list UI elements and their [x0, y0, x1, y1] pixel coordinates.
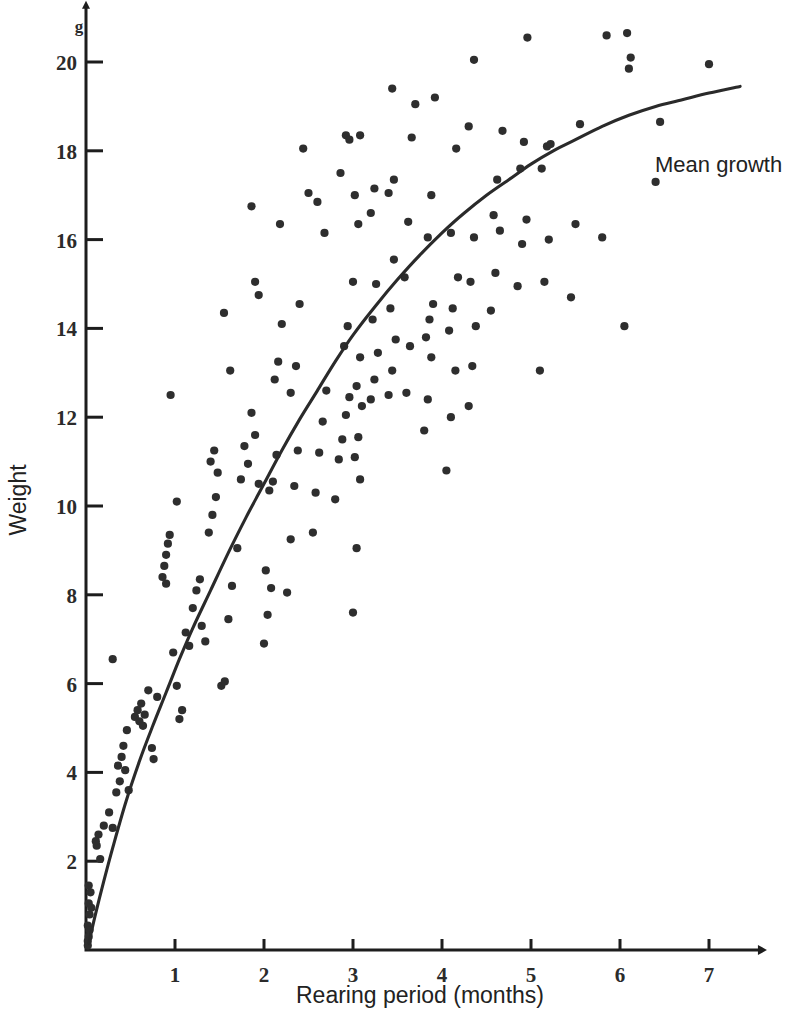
data-point	[175, 715, 183, 723]
data-point	[656, 118, 664, 126]
data-point	[119, 742, 127, 750]
data-point	[372, 280, 380, 288]
data-point	[344, 322, 352, 330]
data-point	[322, 387, 330, 395]
data-point	[627, 54, 635, 62]
data-point	[540, 278, 548, 286]
data-point	[452, 145, 460, 153]
data-point	[498, 127, 506, 135]
data-point	[487, 307, 495, 315]
data-point	[351, 191, 359, 199]
data-point	[105, 808, 113, 816]
data-point	[212, 493, 220, 501]
data-point	[652, 178, 660, 186]
data-point	[276, 220, 284, 228]
data-point	[312, 489, 320, 497]
data-point	[118, 753, 126, 761]
data-point	[251, 278, 259, 286]
y-axis-title: Weight	[5, 464, 31, 536]
data-point	[451, 367, 459, 375]
data-point	[442, 466, 450, 474]
data-point	[385, 189, 393, 197]
data-point	[338, 435, 346, 443]
growth-scatter-figure: 12345672468101214161820 g Weight Rearing…	[0, 0, 793, 1018]
data-point	[169, 648, 177, 656]
data-point	[603, 31, 611, 39]
data-point	[466, 278, 474, 286]
y-tick-label-6: 6	[67, 673, 78, 697]
plot-canvas: 12345672468101214161820 g Weight Rearing…	[0, 0, 793, 1018]
data-point	[349, 609, 357, 617]
data-point	[198, 622, 206, 630]
data-point	[447, 229, 455, 237]
data-point	[369, 315, 377, 323]
data-point	[290, 482, 298, 490]
data-point	[87, 904, 95, 912]
data-point	[404, 218, 412, 226]
data-point	[269, 478, 277, 486]
data-point	[313, 198, 321, 206]
data-point	[353, 544, 361, 552]
y-tick-label-2: 2	[67, 850, 78, 874]
data-point	[220, 309, 228, 317]
data-point	[109, 824, 117, 832]
data-point	[386, 304, 394, 312]
y-tick-label-18: 18	[56, 140, 77, 164]
data-point	[150, 755, 158, 763]
data-point	[370, 375, 378, 383]
data-point	[201, 637, 209, 645]
data-point	[109, 655, 117, 663]
data-point	[345, 136, 353, 144]
data-point	[319, 418, 327, 426]
data-point	[470, 233, 478, 241]
y-tick-label-14: 14	[56, 317, 78, 341]
axes-layer	[82, 1, 767, 955]
data-point	[518, 240, 526, 248]
data-point	[164, 540, 172, 548]
data-point	[420, 426, 428, 434]
data-point	[283, 589, 291, 597]
data-point	[205, 529, 213, 537]
data-point	[244, 460, 252, 468]
data-point	[267, 584, 275, 592]
data-point	[411, 100, 419, 108]
data-point	[210, 446, 218, 454]
data-point	[353, 382, 361, 390]
data-point	[167, 391, 175, 399]
data-point	[422, 333, 430, 341]
data-point	[233, 544, 241, 552]
data-point	[545, 236, 553, 244]
data-point	[431, 93, 439, 101]
data-point	[520, 138, 528, 146]
data-point	[192, 586, 200, 594]
data-point	[454, 273, 462, 281]
data-point	[390, 176, 398, 184]
data-point	[514, 282, 522, 290]
data-point	[392, 335, 400, 343]
data-point	[571, 220, 579, 228]
data-point	[153, 693, 161, 701]
data-point	[226, 367, 234, 375]
data-point	[445, 327, 453, 335]
data-point	[522, 216, 530, 224]
data-point	[354, 433, 362, 441]
data-point	[207, 458, 215, 466]
y-tick-label-12: 12	[56, 406, 77, 430]
data-point	[576, 120, 584, 128]
data-point	[374, 349, 382, 357]
data-point	[262, 566, 270, 574]
data-point	[705, 60, 713, 68]
data-point	[100, 822, 108, 830]
data-point	[92, 837, 100, 845]
x-tick-label-7: 7	[704, 963, 715, 987]
x-tick-label-2: 2	[259, 963, 270, 987]
data-point	[315, 449, 323, 457]
data-point	[490, 211, 498, 219]
data-point	[208, 511, 216, 519]
data-point	[349, 278, 357, 286]
data-point	[287, 535, 295, 543]
data-point	[425, 315, 433, 323]
data-point	[385, 391, 393, 399]
data-point	[121, 766, 129, 774]
data-point	[255, 291, 263, 299]
